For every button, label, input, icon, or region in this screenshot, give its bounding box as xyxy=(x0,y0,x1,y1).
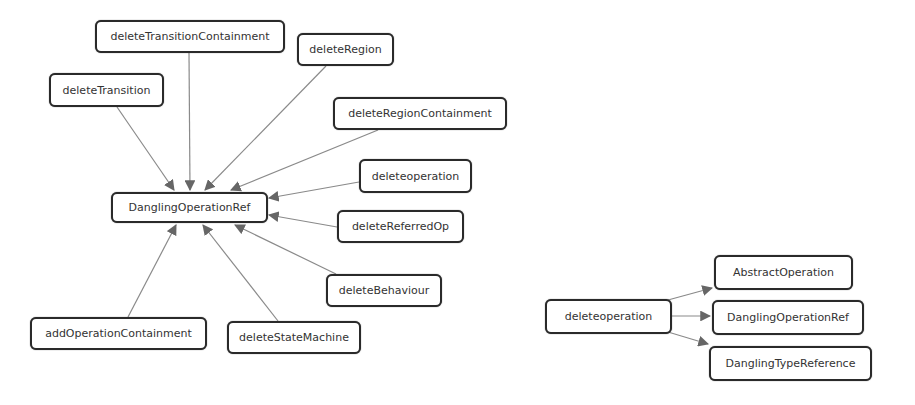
node-DanglingTypeReference[interactable]: DanglingTypeReference xyxy=(709,346,872,381)
edge-n8-to-n_center xyxy=(128,225,176,317)
node-deleteBehaviour[interactable]: deleteBehaviour xyxy=(326,274,442,307)
edge-r0-to-r3 xyxy=(668,332,708,344)
node-DanglingOperationRef[interactable]: DanglingOperationRef xyxy=(111,192,268,223)
node-deleteoperation[interactable]: deleteoperation xyxy=(359,159,472,193)
node-label: deleteReferredOp xyxy=(352,220,449,233)
node-DanglingOperationRef[interactable]: DanglingOperationRef xyxy=(712,300,864,335)
edge-n9-to-n_center xyxy=(203,225,278,321)
node-label: deleteRegionContainment xyxy=(348,107,492,120)
node-deleteRegion[interactable]: deleteRegion xyxy=(297,33,394,66)
edge-n5-to-n_center xyxy=(269,182,359,198)
node-label: deleteStateMachine xyxy=(239,331,349,344)
node-label: deleteTransition xyxy=(63,84,151,97)
node-label: deleteBehaviour xyxy=(339,284,429,297)
node-label: DanglingOperationRef xyxy=(129,201,251,214)
node-deleteStateMachine[interactable]: deleteStateMachine xyxy=(227,321,361,354)
edge-n3-to-n_center xyxy=(117,107,174,190)
node-label: deleteRegion xyxy=(309,43,381,56)
edge-n1-to-n_center xyxy=(189,53,190,190)
node-addOperationContainment[interactable]: addOperationContainment xyxy=(30,317,207,350)
node-deleteTransition[interactable]: deleteTransition xyxy=(49,73,164,107)
node-label: AbstractOperation xyxy=(733,266,834,279)
edge-n7-to-n_center xyxy=(235,225,336,274)
edge-n4-to-n_center xyxy=(231,130,378,190)
node-label: deleteoperation xyxy=(565,310,652,323)
node-deleteReferredOp[interactable]: deleteReferredOp xyxy=(337,210,464,243)
node-deleteTransitionContainment[interactable]: deleteTransitionContainment xyxy=(95,20,285,53)
edge-n2-to-n_center xyxy=(205,66,326,190)
edge-r0-to-r1 xyxy=(668,288,712,300)
node-label: DanglingTypeReference xyxy=(726,357,856,370)
node-AbstractOperation[interactable]: AbstractOperation xyxy=(714,255,853,290)
node-label: deleteoperation xyxy=(372,170,459,183)
node-label: DanglingOperationRef xyxy=(727,311,849,324)
node-deleteoperation[interactable]: deleteoperation xyxy=(545,299,672,334)
node-label: deleteTransitionContainment xyxy=(110,30,269,43)
node-label: addOperationContainment xyxy=(45,327,192,340)
edge-n6-to-n_center xyxy=(269,215,337,227)
node-deleteRegionContainment[interactable]: deleteRegionContainment xyxy=(333,97,507,130)
